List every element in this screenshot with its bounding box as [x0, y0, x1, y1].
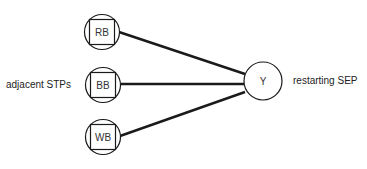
node-bb: BB — [86, 68, 121, 103]
edge-rb-y — [119, 32, 245, 74]
right-label: restarting SEP — [293, 75, 357, 86]
node-y: Y — [244, 62, 282, 100]
node-bb-label: BB — [96, 80, 110, 91]
node-rb-label: RB — [95, 27, 109, 38]
node-rb: RB — [85, 15, 120, 50]
node-wb: WB — [86, 120, 121, 155]
edge-wb-y — [120, 92, 245, 136]
node-y-label: Y — [260, 76, 267, 87]
left-label: adjacent STPs — [6, 79, 71, 90]
node-wb-label: WB — [95, 132, 111, 143]
